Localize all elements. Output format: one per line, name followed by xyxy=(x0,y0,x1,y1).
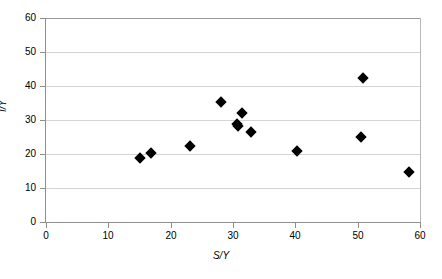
y-tick-label-10: 10 xyxy=(10,183,36,193)
data-point xyxy=(292,146,303,157)
y-tick-30 xyxy=(40,120,46,121)
y-tick-label-30: 30 xyxy=(10,115,36,125)
x-tick-label-30: 30 xyxy=(218,231,248,241)
gridline-y-60 xyxy=(46,18,420,19)
data-point xyxy=(356,132,367,143)
data-point xyxy=(237,108,248,119)
data-point xyxy=(146,148,157,159)
y-tick-40 xyxy=(40,86,46,87)
x-tick-60 xyxy=(420,222,421,228)
y-tick-50 xyxy=(40,52,46,53)
x-axis-title: S/Y xyxy=(0,250,442,261)
y-tick-label-40: 40 xyxy=(10,81,36,91)
x-tick-label-40: 40 xyxy=(280,231,310,241)
gridline-y-50 xyxy=(46,52,420,53)
y-tick-label-20: 20 xyxy=(10,149,36,159)
y-tick-20 xyxy=(40,154,46,155)
gridline-y-20 xyxy=(46,154,420,155)
data-point xyxy=(184,140,195,151)
y-tick-60 xyxy=(40,18,46,19)
data-point xyxy=(216,96,227,107)
x-tick-20 xyxy=(171,222,172,228)
y-axis-title: I/Y xyxy=(0,100,8,112)
x-tick-30 xyxy=(233,222,234,228)
x-tick-label-20: 20 xyxy=(156,231,186,241)
plot-right-border xyxy=(420,18,421,222)
y-tick-10 xyxy=(40,188,46,189)
x-tick-50 xyxy=(358,222,359,228)
y-tick-label-50: 50 xyxy=(10,47,36,57)
gridline-y-10 xyxy=(46,188,420,189)
x-tick-label-0: 0 xyxy=(31,231,61,241)
x-tick-0 xyxy=(46,222,47,228)
x-tick-40 xyxy=(295,222,296,228)
data-point xyxy=(404,167,415,178)
gridline-y-40 xyxy=(46,86,420,87)
data-point xyxy=(358,72,369,83)
data-point xyxy=(245,127,256,138)
y-tick-label-60: 60 xyxy=(10,13,36,23)
y-tick-label-0: 0 xyxy=(10,217,36,227)
x-tick-label-50: 50 xyxy=(343,231,373,241)
x-tick-label-60: 60 xyxy=(405,231,435,241)
x-tick-label-10: 10 xyxy=(93,231,123,241)
chart-figure: 0102030405060 0102030405060 S/Y I/Y xyxy=(0,0,442,279)
x-tick-10 xyxy=(108,222,109,228)
